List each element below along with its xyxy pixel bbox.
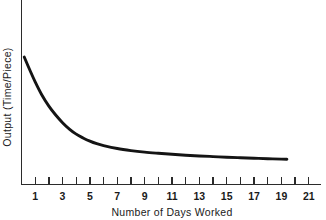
x-axis-tick-marks [35,177,309,185]
x-axis-tick-label: 11 [166,190,177,202]
x-axis-tick-label: 5 [87,190,93,202]
x-axis-tick-labels: 13579111315171921 [32,190,315,202]
x-axis-tick-label: 1 [32,190,38,202]
x-axis-tick-label: 9 [142,190,148,202]
x-axis-tick-label: 17 [248,190,260,202]
y-axis-title: Output (Time/Piece) [1,47,13,146]
x-axis-tick-label: 13 [193,190,205,202]
x-axis-tick-label: 19 [276,190,288,202]
learning-curve-chart: 13579111315171921 Number of Days Worked … [0,0,326,220]
output-learning-curve [24,57,287,159]
x-axis-tick-label: 21 [303,190,315,202]
x-axis-tick-label: 15 [221,190,233,202]
x-axis-tick-label: 7 [114,190,120,202]
x-axis-tick-label: 3 [60,190,66,202]
x-axis-title: Number of Days Worked [111,206,232,218]
chart-canvas: 13579111315171921 Number of Days Worked … [0,0,326,220]
